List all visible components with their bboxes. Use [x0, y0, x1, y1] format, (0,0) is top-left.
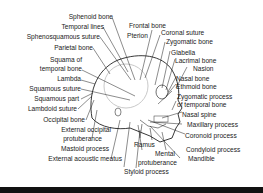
label-pterion: Pterion	[127, 32, 148, 39]
label-ethmoid-bone: Ethmoid bone	[176, 83, 217, 90]
inner-circle	[104, 64, 148, 108]
label-nasion: Nasion	[193, 65, 214, 72]
label-squamous-part: Squamous part	[34, 95, 79, 102]
label-temporal-lines: Temporal lines	[61, 23, 104, 30]
label-squamous-suture: Squamous suture	[29, 85, 81, 92]
label-parietal-bone: Parietal bone	[54, 44, 93, 51]
label-zygomatic-bone: Zygomatic bone	[166, 38, 213, 45]
label-temporal-bone: temporal bone	[40, 65, 82, 72]
label-mental-protuberance: protuberance	[138, 159, 177, 166]
label-lambdoid-suture: Lambdoid suture	[28, 105, 77, 112]
label-maxillary-process: Maxillary process	[187, 121, 238, 128]
label-coronoid-process: Coronoid process	[185, 132, 237, 139]
label-sphenoid-bone: Sphenoid bone	[69, 13, 113, 20]
label-glabella: Glabella	[171, 49, 195, 56]
label-zygomatic-process: Zygomatic process	[177, 93, 232, 100]
label-coronal-suture: Coronal suture	[161, 29, 204, 36]
label-mastoid-process: Mastoid process	[61, 145, 109, 152]
label-frontal-bone: Frontal bone	[129, 22, 166, 29]
label-occipital-bone: Occipital bone	[43, 116, 85, 123]
label-condyloid-process: Condyloid process	[186, 146, 240, 153]
label-nasal-bone: Nasal bone	[176, 75, 209, 82]
label-lambda: Lambda	[57, 75, 81, 82]
label-of-temporal-bone: of temporal bone	[177, 101, 227, 108]
bottom-border	[0, 187, 263, 193]
label-ramus: Ramus	[134, 141, 155, 148]
skull-diagram: Sphenoid bone Temporal lines Sphenosquam…	[0, 0, 263, 193]
label-styloid-process: Styloid process	[124, 168, 169, 175]
label-mandible: Mandible	[188, 155, 215, 162]
label-mental: Mental	[144, 150, 186, 157]
label-lacrimal-bone: Lacrimal bone	[175, 57, 216, 64]
label-sphenosquamous-suture: Sphenosquamous suture	[27, 33, 100, 40]
label-protuberance: protuberance	[63, 135, 102, 142]
label-nasal-spine: Nasal spine	[182, 111, 216, 118]
label-external-acoustic-meatus: External acoustic meatus	[48, 155, 122, 162]
label-squama-of: Squama of	[50, 56, 82, 63]
label-external-occipital: External occipital	[61, 126, 111, 133]
